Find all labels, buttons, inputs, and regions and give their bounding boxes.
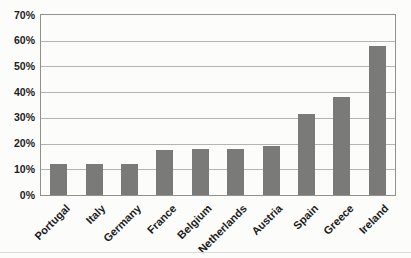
bar-netherlands: [227, 149, 244, 195]
y-tick-label-40: 40%: [0, 86, 35, 99]
bar-ireland: [369, 46, 386, 195]
bar-france: [156, 150, 173, 195]
page-artifact-line: [0, 252, 411, 253]
bar-italy: [86, 164, 103, 195]
x-tick-label-austria: Austria: [249, 202, 284, 237]
bar-austria: [263, 146, 280, 195]
gridline-50: [41, 66, 395, 67]
y-tick-label-50: 50%: [0, 60, 35, 73]
x-tick-label-spain: Spain: [290, 202, 320, 232]
bar-portugal: [50, 164, 67, 195]
x-tick-label-italy: Italy: [84, 202, 108, 226]
y-tick-label-0: 0%: [0, 189, 35, 202]
y-tick-label-70: 70%: [0, 9, 35, 22]
gridline-40: [41, 92, 395, 93]
bar-greece: [333, 97, 350, 195]
y-tick-label-30: 30%: [0, 111, 35, 124]
x-tick-label-france: France: [144, 202, 178, 236]
gridline-60: [41, 41, 395, 42]
x-tick-label-ireland: Ireland: [357, 202, 391, 236]
bar-belgium: [192, 149, 209, 195]
plot-area: [40, 14, 396, 196]
bar-germany: [121, 164, 138, 195]
y-tick-label-60: 60%: [0, 34, 35, 47]
y-tick-label-20: 20%: [0, 137, 35, 150]
bar-chart-figure: 0%10%20%30%40%50%60%70% PortugalItalyGer…: [0, 0, 411, 258]
y-tick-label-10: 10%: [0, 163, 35, 176]
x-tick-label-portugal: Portugal: [32, 202, 72, 242]
bar-spain: [298, 114, 315, 195]
x-tick-label-germany: Germany: [101, 202, 143, 244]
x-tick-label-greece: Greece: [321, 202, 356, 237]
